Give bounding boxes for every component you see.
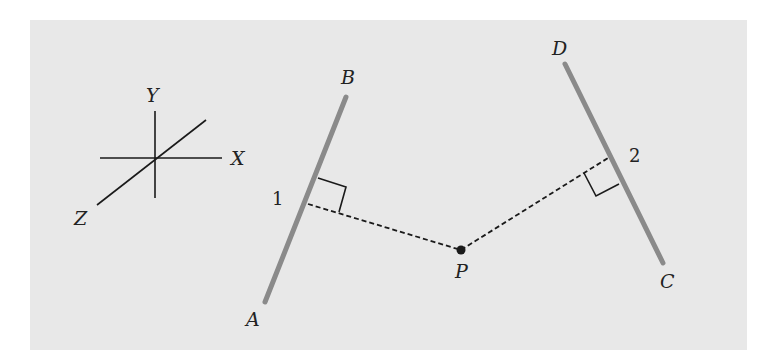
label-a: A [244,308,260,330]
label-foot-2: 2 [629,145,640,166]
y-axis-label: Y [146,84,161,106]
z-axis-label: Z [73,207,88,229]
rod-dc [565,64,663,263]
z-axis [97,120,206,205]
label-b: B [340,66,355,88]
diagram-canvas: Y X Z B A D C P 1 2 [0,0,771,362]
label-d: D [551,37,567,59]
label-c: C [660,270,675,292]
perpendicular-1 [308,204,461,250]
right-angle-mark-1 [318,178,346,212]
label-p: P [454,260,469,282]
right-angle-mark-2 [584,173,619,196]
label-foot-1: 1 [272,188,283,209]
axes-icon [97,111,222,205]
x-axis-label: X [229,147,246,169]
point-p [457,246,466,255]
perpendicular-2 [461,158,608,250]
